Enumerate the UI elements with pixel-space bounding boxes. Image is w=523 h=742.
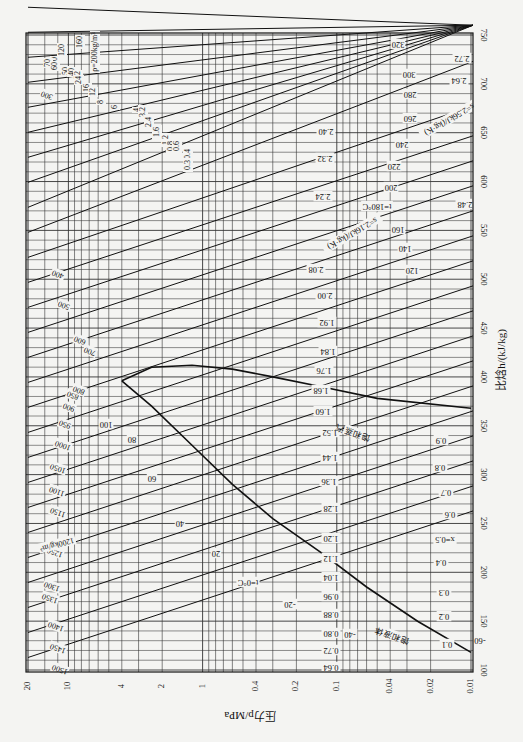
svg-text:0.3: 0.3: [183, 160, 192, 170]
svg-text:1.60: 1.60: [316, 407, 331, 417]
svg-text:100: 100: [100, 420, 113, 430]
enthalpy-tick: 600: [479, 175, 489, 188]
svg-text:2.00: 2.00: [318, 291, 333, 301]
pressure-tick: 2: [156, 684, 166, 688]
enthalpy-tick: 400: [479, 371, 489, 384]
enthalpy-tick: 100: [479, 664, 489, 677]
pressure-tick: 0.02: [425, 679, 435, 694]
svg-text:1.84: 1.84: [320, 347, 336, 357]
enthalpy-tick: 550: [479, 224, 489, 237]
svg-text:80: 80: [128, 435, 137, 445]
svg-text:220: 220: [388, 162, 401, 172]
pressure-tick: 4: [116, 683, 126, 688]
svg-text:0.2: 0.2: [439, 612, 450, 622]
svg-text:8: 8: [96, 100, 105, 104]
pressure-tick: 0.4: [250, 680, 260, 691]
svg-text:2.48: 2.48: [458, 200, 473, 210]
svg-text:0.3: 0.3: [439, 588, 450, 598]
svg-text:120: 120: [406, 266, 419, 276]
enthalpy-tick: 650: [479, 126, 489, 139]
svg-text:1.04: 1.04: [323, 573, 339, 583]
enthalpy-tick: 250: [479, 517, 489, 530]
svg-text:2.24: 2.24: [315, 192, 331, 202]
svg-text:60: 60: [148, 474, 157, 484]
svg-text:饱和液体: 饱和液体: [373, 625, 410, 647]
svg-text:300: 300: [403, 70, 416, 80]
svg-text:160: 160: [75, 36, 84, 48]
svg-text:2.08: 2.08: [309, 265, 324, 275]
svg-text:140: 140: [399, 244, 412, 254]
svg-text:1.76: 1.76: [317, 366, 332, 376]
pressure-tick: 0.1: [331, 681, 341, 692]
svg-text:120: 120: [57, 44, 66, 56]
svg-text:1.12: 1.12: [324, 554, 339, 564]
svg-text:1.36: 1.36: [322, 477, 337, 487]
svg-text:0.6: 0.6: [172, 141, 181, 151]
svg-text:240: 240: [396, 140, 409, 150]
enthalpy-tick: 700: [479, 77, 489, 90]
svg-text:200: 200: [385, 183, 398, 193]
ph-diagram: -60-40-20t=0°C20406080100120140160t=180°…: [0, 0, 523, 742]
enthalpy-tick: 450: [479, 322, 489, 335]
pressure-tick: 1: [197, 684, 207, 688]
svg-text:0.9: 0.9: [436, 436, 447, 446]
enthalpy-tick: 750: [479, 29, 489, 42]
svg-text:260: 260: [404, 114, 417, 124]
svg-text:40: 40: [176, 519, 185, 529]
svg-text:2.72: 2.72: [455, 54, 470, 64]
svg-text:1.68: 1.68: [314, 386, 329, 396]
pressure-tick-labels: 0.010.020.040.10.20.41241020: [22, 678, 475, 694]
svg-text:0.4: 0.4: [183, 149, 192, 159]
pressure-axis-title: 压力p/MPa: [224, 710, 275, 722]
svg-text:0.4: 0.4: [435, 558, 446, 568]
svg-text:2.4: 2.4: [144, 117, 153, 127]
enthalpy-tick: 350: [479, 419, 489, 432]
enthalpy-axis-title: 比焓h/(kJ/kg): [494, 329, 508, 391]
svg-text:2.64: 2.64: [451, 76, 467, 86]
enthalpy-tick: 300: [479, 468, 489, 481]
svg-text:0.80: 0.80: [324, 629, 339, 639]
svg-text:0.72: 0.72: [324, 646, 339, 656]
svg-text:s=2.16kJ/(kg·K): s=2.16kJ/(kg·K): [326, 216, 380, 253]
svg-text:6: 6: [110, 105, 119, 109]
pressure-tick: 0.2: [290, 681, 300, 692]
svg-text:0.96: 0.96: [324, 592, 339, 602]
svg-text:0.88: 0.88: [324, 610, 339, 620]
svg-text:24: 24: [74, 76, 83, 84]
svg-text:0.8: 0.8: [435, 463, 446, 473]
svg-text:12: 12: [88, 88, 97, 96]
svg-text:0.7: 0.7: [441, 488, 452, 498]
svg-text:1.44: 1.44: [322, 453, 338, 463]
svg-text:t=0°C: t=0°C: [237, 578, 258, 588]
pressure-tick: 20: [22, 682, 32, 691]
svg-text:-20: -20: [284, 600, 295, 610]
enthalpy-tick-labels: 1001502002503003504004505005506006507007…: [479, 29, 489, 677]
pressure-tick: 0.01: [465, 679, 475, 694]
svg-text:2.32: 2.32: [318, 154, 333, 164]
svg-text:2.40: 2.40: [319, 127, 334, 137]
svg-text:1.20: 1.20: [324, 534, 339, 544]
pressure-tick: 0.04: [384, 678, 394, 694]
svg-text:x=0.5: x=0.5: [435, 535, 455, 545]
enthalpy-tick: 150: [479, 615, 489, 628]
svg-text:-40: -40: [344, 630, 355, 640]
svg-text:1.6: 1.6: [152, 127, 161, 137]
svg-text:20: 20: [212, 549, 221, 559]
enthalpy-tick: 200: [479, 566, 489, 579]
svg-text:0.6: 0.6: [445, 510, 456, 520]
svg-text:160: 160: [392, 225, 405, 235]
pressure-tick: 10: [62, 682, 72, 691]
enthalpy-tick: 500: [479, 273, 489, 286]
svg-text:60: 60: [50, 62, 59, 70]
svg-text:t=180°C: t=180°C: [362, 202, 391, 212]
svg-text:280: 280: [404, 90, 417, 100]
svg-text:1.92: 1.92: [320, 318, 335, 328]
svg-text:0.1: 0.1: [442, 640, 453, 650]
svg-text:320: 320: [392, 40, 405, 50]
svg-text:1.28: 1.28: [324, 504, 339, 514]
svg-text:ρ=200kg/m³: ρ=200kg/m³: [90, 32, 99, 72]
svg-text:-60: -60: [474, 636, 485, 646]
